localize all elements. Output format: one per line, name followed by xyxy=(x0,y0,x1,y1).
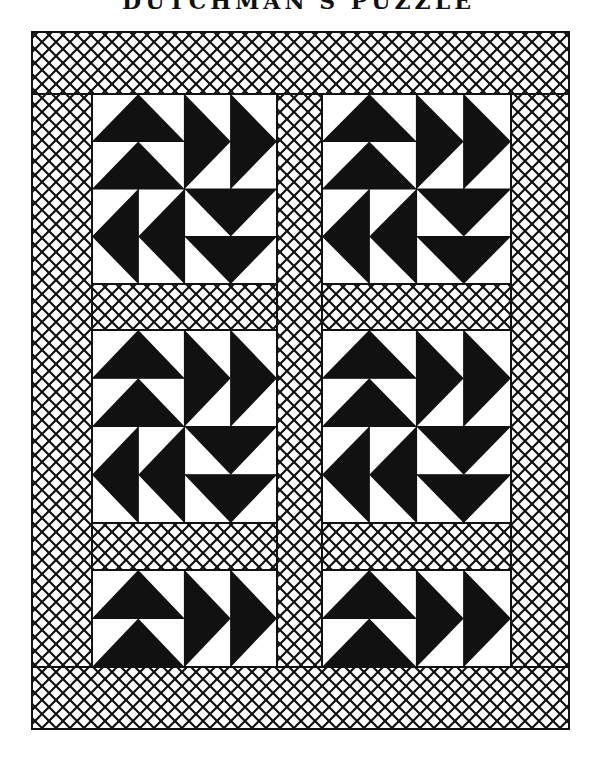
vertical-sashing xyxy=(277,94,322,667)
block-row3-right xyxy=(322,570,511,667)
horizontal-sashing-left-1 xyxy=(92,284,277,330)
horizontal-sashing-right-1 xyxy=(322,284,511,330)
quilt-diagram xyxy=(0,0,597,760)
border-bottom xyxy=(32,667,569,729)
border-top xyxy=(32,32,569,94)
border-right xyxy=(511,94,569,667)
block-row1-left xyxy=(92,94,277,284)
block-row2-left xyxy=(92,330,277,523)
block-row2-right xyxy=(322,330,511,523)
horizontal-sashing-right-2 xyxy=(322,523,511,570)
block-row3-left xyxy=(92,570,277,667)
border-left xyxy=(32,94,92,667)
block-row1-right xyxy=(322,94,511,284)
horizontal-sashing-left-2 xyxy=(92,523,277,570)
